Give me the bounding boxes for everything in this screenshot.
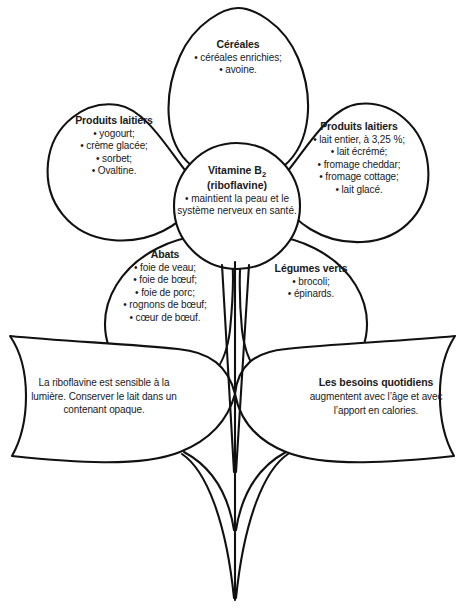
petal-text-produits-laitiers-droite: Produits laitiers • lait entier, à 3,25 … [289,120,429,196]
list-item: • foie de bœuf; [100,274,230,286]
petal-title-legumes-verts: Légumes verts [248,262,374,275]
center-text-block: Vitamine B2 (riboflavine) • maintient la… [170,164,304,218]
petal-list-abats: • foie de veau; • foie de bœuf; • foie d… [100,262,230,324]
leaf-text-conservation: La riboflavine est sensible à la lumière… [24,376,184,417]
list-item: • fromage cheddar; [289,159,429,171]
list-item: • céréales enrichies; [163,52,313,64]
flower-outline-svg [0,0,464,614]
center-title-subscript: 2 [262,170,266,179]
petal-text-abats: Abats • foie de veau; • foie de bœuf; • … [100,248,230,324]
list-item: • lait entier, à 3,25 %; [289,134,429,146]
list-item: • rognons de bœuf; [100,299,230,311]
list-item: • fromage cottage; [289,171,429,183]
list-item: • brocoli; [248,276,374,288]
leaf-body-besoins-quotidiens: augmentent avec l’âge et avec l’apport e… [300,390,452,417]
list-item: • foie de porc; [100,287,230,299]
petal-list-legumes-verts: • brocoli; • épinards. [248,276,374,301]
center-title: Vitamine B2 (riboflavine) [170,164,304,192]
list-item: • Ovaltine. [47,165,181,177]
list-item: • sorbet; [47,153,181,165]
list-item: • lait écrémé; [289,146,429,158]
list-item: • yogourt; [47,128,181,140]
leaf-text-besoins-quotidiens: Les besoins quotidiens augmentent avec l… [300,376,452,417]
petal-title-cereales: Céréales [163,38,313,51]
stem-blade-outer-right [236,454,288,598]
center-title-main: Vitamine B [208,164,262,176]
leaf-body-conservation: La riboflavine est sensible à la lumière… [24,376,184,417]
petal-list-produits-laitiers-droite: • lait entier, à 3,25 %; • lait écrémé; … [289,134,429,196]
center-title-secondary: (riboflavine) [207,179,267,191]
list-item: • cœur de bœuf. [100,312,230,324]
vitamin-b2-flower-diagram: Céréales • céréales enrichies; • avoine.… [0,0,464,614]
petal-list-cereales: • céréales enrichies; • avoine. [163,52,313,77]
leaf-title-besoins-quotidiens: Les besoins quotidiens [300,376,452,389]
petal-title-produits-laitiers-droite: Produits laitiers [289,120,429,133]
list-item: • épinards. [248,288,374,300]
petal-text-legumes-verts: Légumes verts • brocoli; • épinards. [248,262,374,301]
petal-title-produits-laitiers-gauche: Produits laitiers [47,114,181,127]
petal-title-abats: Abats [100,248,230,261]
stem-blade-outer-left [182,454,234,598]
list-item: • avoine. [163,64,313,76]
list-item: • foie de veau; [100,262,230,274]
list-item: • lait glacé. [289,184,429,196]
petal-text-produits-laitiers-gauche: Produits laitiers • yogourt; • crème gla… [47,114,181,178]
petal-text-cereales: Céréales • céréales enrichies; • avoine. [163,38,313,77]
list-item: • crème glacée; [47,140,181,152]
center-body-text: • maintient la peau et le système nerveu… [170,193,304,218]
petal-list-produits-laitiers-gauche: • yogourt; • crème glacée; • sorbet; • O… [47,128,181,178]
